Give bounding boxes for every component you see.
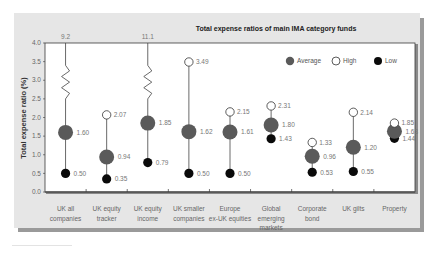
x-category-label-line: income (137, 215, 158, 222)
x-category-label-line: emerging (258, 215, 285, 223)
x-category-label-line: Corporate (298, 205, 327, 213)
low-point (349, 167, 358, 176)
average-value-label: 1.80 (282, 121, 295, 128)
x-category-label-line: companies (173, 215, 205, 223)
x-category-label-line: UK equity (93, 205, 122, 213)
high-point (102, 111, 110, 119)
y-tick-label: 0.0 (32, 188, 41, 195)
x-category-label: UK smallercompanies (173, 205, 206, 223)
x-category-label-line: markets (260, 224, 284, 231)
caption-rule (12, 245, 72, 246)
low-point (102, 174, 111, 183)
legend-label: Average (297, 57, 321, 65)
average-value-label: 1.20 (364, 144, 377, 151)
average-value-label: 1.85 (159, 119, 172, 126)
chart: Total expense ratios of main IMA categor… (0, 0, 436, 256)
low-value-label: 0.53 (320, 169, 333, 176)
average-point (58, 125, 73, 140)
low-value-label: 0.50 (74, 170, 87, 177)
x-category-label-line: bond (305, 215, 320, 222)
average-point (264, 117, 279, 132)
average-point (305, 149, 320, 164)
low-point (225, 169, 234, 178)
x-category-label-line: companies (50, 215, 82, 223)
high-value-label: 2.31 (278, 102, 291, 109)
x-category-label-line: Global (262, 205, 281, 212)
legend-label: Low (385, 57, 397, 64)
x-category-label-line: Property (382, 205, 407, 213)
y-tick-label: 0.5 (32, 170, 41, 177)
low-point (143, 158, 152, 167)
low-value-label: 0.50 (197, 170, 210, 177)
average-value-label: 1.62 (200, 128, 213, 135)
high-point (185, 58, 193, 66)
low-point (308, 168, 317, 177)
y-tick-label: 1.0 (32, 151, 41, 158)
low-value-label: 0.35 (115, 175, 128, 182)
y-tick-label: 2.0 (32, 114, 41, 121)
x-category-label-line: UK smaller (173, 205, 206, 212)
x-category-label-line: UK all (57, 205, 75, 212)
y-tick-label: 1.5 (32, 132, 41, 139)
high-point (349, 108, 357, 116)
average-point (140, 116, 155, 131)
y-tick-label: 3.5 (32, 58, 41, 65)
low-point (267, 134, 276, 143)
low-value-label: 1.43 (279, 135, 292, 142)
high-value-label: 1.85 (401, 119, 414, 126)
average-value-label: 1.60 (77, 129, 90, 136)
x-category-label: Property (382, 205, 407, 213)
x-category-label-line: UK equity (134, 205, 163, 213)
average-point (346, 140, 361, 155)
high-point (267, 102, 275, 110)
x-category-label-line: ex-UK equities (209, 215, 252, 223)
x-category-label: UK gilts (342, 205, 365, 213)
high-value-label: 9.2 (61, 33, 70, 40)
high-point (390, 119, 398, 127)
average-value-label: 1.63 (405, 128, 418, 135)
high-value-label: 2.07 (114, 111, 127, 118)
high-value-label: 2.15 (237, 108, 250, 115)
low-value-label: 0.55 (361, 168, 374, 175)
x-category-label-line: tracker (97, 215, 118, 222)
low-point (184, 169, 193, 178)
legend-label: High (343, 57, 357, 65)
high-point (226, 108, 234, 116)
legend-average-marker (286, 57, 294, 65)
average-value-label: 0.96 (323, 153, 336, 160)
high-value-label: 2.14 (360, 109, 373, 116)
low-value-label: 0.50 (238, 170, 251, 177)
high-value-label: 11.1 (142, 33, 155, 40)
y-tick-label: 4.0 (32, 39, 41, 46)
average-point (223, 125, 238, 140)
average-point (181, 124, 196, 139)
high-value-label: 3.49 (196, 58, 209, 65)
average-value-label: 0.94 (118, 153, 131, 160)
legend-high-marker (332, 57, 340, 65)
x-category-label-line: UK gilts (342, 205, 365, 213)
legend-low-marker (374, 57, 382, 65)
y-axis-label: Total expense ratio (%) (19, 77, 28, 159)
average-point (99, 149, 114, 164)
low-point (61, 169, 70, 178)
average-value-label: 1.61 (241, 128, 254, 135)
x-category-label-line: Europe (220, 205, 241, 213)
y-tick-label: 2.5 (32, 95, 41, 102)
high-value-label: 1.33 (319, 139, 332, 146)
y-tick-label: 3.0 (32, 76, 41, 83)
low-value-label: 0.79 (156, 159, 169, 166)
high-point (308, 138, 316, 146)
low-value-label: 1.44 (402, 135, 415, 142)
chart-title: Total expense ratios of main IMA categor… (196, 25, 357, 33)
